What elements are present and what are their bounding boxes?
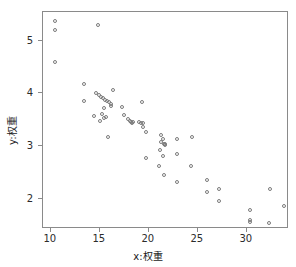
data-point <box>162 173 166 177</box>
x-tick-label: 15 <box>92 233 105 244</box>
plot-frame <box>42 11 288 228</box>
data-point <box>282 204 286 208</box>
data-point <box>248 220 252 224</box>
data-point <box>161 154 165 158</box>
data-point <box>106 135 110 139</box>
data-point <box>205 178 209 182</box>
x-tick-label: 25 <box>190 233 203 244</box>
data-point <box>53 19 57 23</box>
data-point <box>217 187 221 191</box>
data-point <box>141 125 145 129</box>
data-point <box>248 208 252 212</box>
data-point <box>130 121 134 125</box>
data-point <box>175 152 179 156</box>
data-point <box>158 148 162 152</box>
y-axis-label: y:权重 <box>4 123 19 145</box>
data-point <box>122 113 126 117</box>
data-point <box>102 106 106 110</box>
data-point <box>217 199 221 203</box>
data-point <box>109 104 113 108</box>
data-point <box>267 221 271 225</box>
data-point <box>144 130 148 134</box>
x-tick-label: 20 <box>141 233 154 244</box>
data-point <box>175 180 179 184</box>
x-tick-mark <box>246 228 247 232</box>
x-tick-mark <box>197 228 198 232</box>
x-tick-mark <box>99 228 100 232</box>
data-point <box>53 60 57 64</box>
plot-area <box>43 12 287 227</box>
data-point <box>98 119 102 123</box>
data-point <box>190 135 194 139</box>
x-tick-mark <box>148 228 149 232</box>
data-point <box>157 164 161 168</box>
data-point <box>205 190 209 194</box>
data-point <box>120 105 124 109</box>
data-point <box>96 23 100 27</box>
data-point <box>53 28 57 32</box>
data-point <box>189 164 193 168</box>
data-point <box>111 88 115 92</box>
data-point <box>102 116 106 120</box>
data-point <box>92 114 96 118</box>
x-axis-label: x:权重 <box>0 248 296 263</box>
y-tick-label: 4 <box>27 87 33 98</box>
y-tick-label: 5 <box>27 34 33 45</box>
data-point <box>268 187 272 191</box>
y-tick-label: 2 <box>27 192 33 203</box>
x-tick-label: 30 <box>239 233 252 244</box>
data-point <box>175 137 179 141</box>
scatter-plot-figure: y:权重 2345 1015202530 x:权重 <box>0 0 296 267</box>
data-point <box>144 156 148 160</box>
y-tick-label: 3 <box>27 139 33 150</box>
data-point <box>82 99 86 103</box>
data-point <box>82 82 86 86</box>
x-tick-label: 10 <box>43 233 56 244</box>
x-tick-mark <box>50 228 51 232</box>
data-point <box>140 100 144 104</box>
